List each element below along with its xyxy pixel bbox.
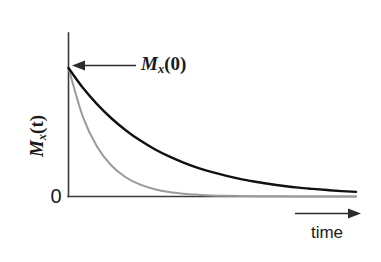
y-axis-label-variable: M bbox=[26, 140, 47, 157]
annotation-argument: (0) bbox=[164, 53, 186, 74]
y-axis-label-argument: (t) bbox=[26, 115, 47, 134]
x-axis-label: time bbox=[311, 224, 343, 241]
y-axis-label: Mx(t) bbox=[27, 115, 48, 157]
annotation-arrow-head bbox=[72, 61, 85, 71]
annotation-arrow-left bbox=[72, 61, 136, 71]
annotation-variable: M bbox=[141, 53, 158, 74]
figure-container: Mx(t) 0 Mx(0) time bbox=[0, 0, 381, 262]
y-axis-label-subscript: x bbox=[35, 134, 49, 140]
time-arrow-right bbox=[295, 208, 361, 218]
time-arrow-head bbox=[348, 208, 361, 218]
origin-tick-label: 0 bbox=[50, 186, 61, 206]
decay-curve-fast bbox=[69, 68, 357, 197]
initial-value-annotation-label: Mx(0) bbox=[141, 54, 186, 75]
decay-curve-slow bbox=[69, 68, 357, 192]
